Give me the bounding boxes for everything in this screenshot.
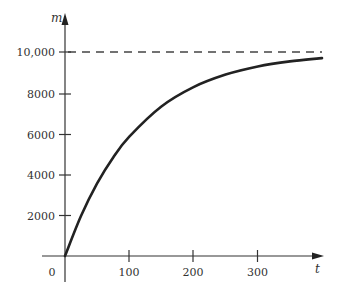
growth-curve: [65, 58, 322, 256]
y-tick-label-10000: 10,000: [17, 46, 56, 59]
y-tick-label-4000: 4000: [27, 169, 55, 182]
origin-label: 0: [49, 266, 56, 279]
x-tick-label-300: 300: [247, 266, 268, 279]
x-tick-label-100: 100: [119, 266, 140, 279]
y-tick-label-8000: 8000: [27, 88, 55, 101]
x-axis-arrow-icon: [312, 253, 324, 260]
y-tick-label-2000: 2000: [27, 210, 55, 223]
x-tick-label-200: 200: [183, 266, 204, 279]
y-tick-label-6000: 6000: [27, 129, 55, 142]
y-axis-arrow-icon: [62, 13, 69, 25]
chart: 10,000 8000 6000 4000 2000 0 100 200 300…: [0, 0, 339, 297]
y-axis-label: m: [51, 11, 62, 25]
x-axis-label: t: [315, 262, 320, 276]
